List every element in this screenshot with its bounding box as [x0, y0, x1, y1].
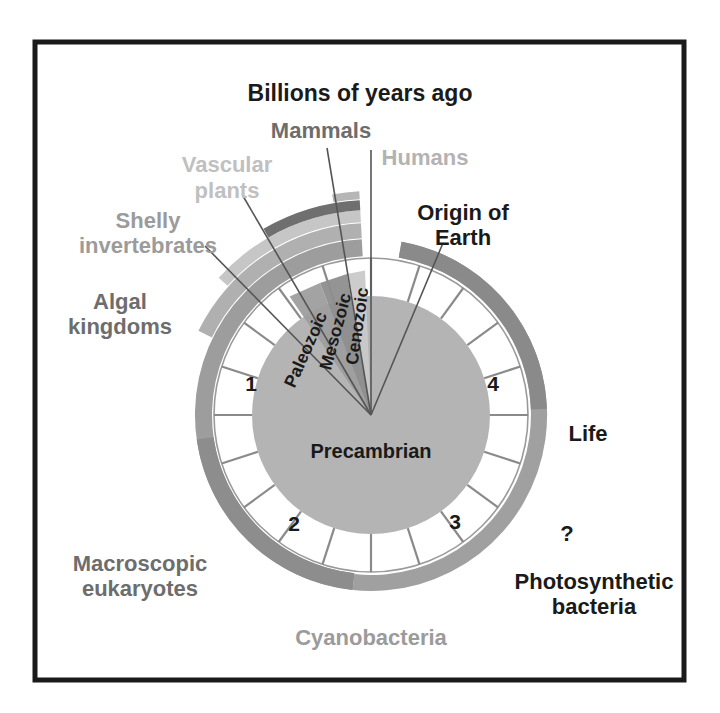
label-mammals: Mammals	[271, 118, 371, 143]
label-macroscopic-eukaryotes-line1: Macroscopic	[73, 551, 208, 576]
label-vascular-plants-line2: plants	[195, 178, 260, 203]
label-origin-of-earth-line1: Origin of	[417, 200, 509, 225]
clock-number-3: 3	[449, 510, 461, 533]
label-life: Life	[568, 421, 607, 446]
label-photosynthetic-bacteria-line1: Photosynthetic	[515, 569, 674, 594]
geologic-time-clock-diagram: Paleozoic Mesozoic Cenozoic 1 2 3 4 Prec…	[0, 0, 720, 713]
label-algal-kingdoms-line1: Algal	[93, 289, 147, 314]
geologic-clock-figure: Paleozoic Mesozoic Cenozoic 1 2 3 4 Prec…	[0, 0, 720, 713]
label-humans: Humans	[382, 145, 469, 170]
label-shelly-invertebrates-line1: Shelly	[116, 208, 182, 233]
clock-number-4: 4	[487, 372, 499, 395]
label-algal-kingdoms-line2: kingdoms	[68, 314, 172, 339]
clock-number-1: 1	[245, 372, 257, 395]
label-photosynthetic-bacteria-line2: bacteria	[552, 594, 637, 619]
label-vascular-plants-line1: Vascular	[182, 152, 273, 177]
figure-title: Billions of years ago	[248, 80, 473, 106]
label-macroscopic-eukaryotes-line2: eukaryotes	[82, 576, 198, 601]
label-shelly-invertebrates-line2: invertebrates	[79, 233, 217, 258]
label-question-mark: ?	[560, 521, 573, 546]
clock-number-2: 2	[288, 512, 300, 535]
label-cyanobacteria: Cyanobacteria	[295, 625, 447, 650]
label-origin-of-earth-line2: Earth	[435, 225, 491, 250]
center-label-precambrian: Precambrian	[310, 440, 431, 462]
